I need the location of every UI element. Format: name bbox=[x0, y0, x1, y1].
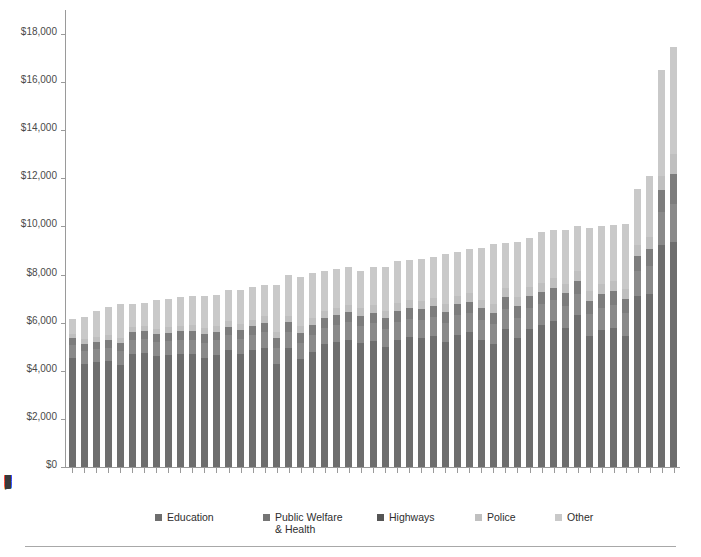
x-axis-tick-mark bbox=[421, 468, 422, 473]
bar-segment bbox=[81, 351, 88, 364]
bar[interactable] bbox=[562, 230, 569, 467]
bar[interactable] bbox=[237, 290, 244, 467]
bar[interactable] bbox=[93, 311, 100, 467]
bar-segment bbox=[526, 329, 533, 467]
bar[interactable] bbox=[321, 271, 328, 467]
bar[interactable] bbox=[430, 257, 437, 467]
bar-segment bbox=[574, 294, 581, 316]
bar-segment bbox=[550, 230, 557, 279]
bar-segment bbox=[382, 311, 389, 319]
bar[interactable] bbox=[357, 271, 364, 467]
bar-segment bbox=[514, 242, 521, 297]
bar[interactable] bbox=[117, 304, 124, 467]
bar[interactable] bbox=[478, 248, 485, 467]
bar[interactable] bbox=[345, 267, 352, 467]
bar[interactable] bbox=[261, 285, 268, 467]
bar-segment bbox=[598, 226, 605, 284]
bar[interactable] bbox=[586, 228, 593, 467]
bar[interactable] bbox=[201, 296, 208, 467]
bar[interactable] bbox=[490, 244, 497, 467]
bar[interactable] bbox=[406, 260, 413, 467]
bar-segment bbox=[225, 327, 232, 336]
bar-segment bbox=[490, 324, 497, 344]
bar[interactable] bbox=[502, 243, 509, 467]
bar-segment bbox=[153, 300, 160, 329]
bar[interactable] bbox=[225, 290, 232, 467]
legend-label: Highways bbox=[389, 511, 435, 523]
bar[interactable] bbox=[105, 307, 112, 467]
bar[interactable] bbox=[442, 254, 449, 467]
bar-segment bbox=[646, 176, 653, 237]
bar-segment bbox=[478, 308, 485, 320]
bar[interactable] bbox=[129, 304, 136, 467]
bar[interactable] bbox=[213, 295, 220, 467]
bar-segment bbox=[105, 361, 112, 467]
x-axis-tick-mark bbox=[469, 468, 470, 473]
bar-segment bbox=[442, 312, 449, 323]
legend-swatch bbox=[475, 514, 482, 521]
bar[interactable] bbox=[153, 300, 160, 467]
bar[interactable] bbox=[526, 238, 533, 467]
bar[interactable] bbox=[646, 176, 653, 467]
bar-segment bbox=[297, 326, 304, 333]
bar-segment bbox=[370, 267, 377, 305]
bar-segment bbox=[345, 340, 352, 467]
bar[interactable] bbox=[670, 47, 677, 467]
bar-segment bbox=[333, 325, 340, 342]
bar[interactable] bbox=[69, 319, 76, 467]
legend-item[interactable]: Police bbox=[475, 511, 516, 523]
bar-segment bbox=[490, 304, 497, 313]
x-axis-tick-mark bbox=[578, 468, 579, 473]
bar[interactable] bbox=[333, 269, 340, 467]
bar[interactable] bbox=[658, 70, 665, 467]
bar-segment bbox=[357, 271, 364, 308]
bar[interactable] bbox=[81, 317, 88, 467]
y-axis-tick: $10,000 bbox=[0, 226, 66, 227]
legend-item[interactable]: Public Welfare & Health bbox=[263, 511, 343, 535]
bar[interactable] bbox=[189, 296, 196, 467]
y-axis-tick-label: $14,000 bbox=[21, 122, 57, 133]
bar-segment bbox=[309, 352, 316, 467]
legend-item[interactable]: Other bbox=[555, 511, 593, 523]
bar[interactable] bbox=[466, 249, 473, 467]
bar[interactable] bbox=[165, 299, 172, 467]
bar[interactable] bbox=[394, 261, 401, 467]
bar-segment bbox=[406, 300, 413, 308]
bar[interactable] bbox=[574, 226, 581, 467]
bar[interactable] bbox=[249, 287, 256, 467]
bar-segment bbox=[430, 317, 437, 336]
bar-segment bbox=[574, 315, 581, 467]
legend-item[interactable]: Highways bbox=[377, 511, 435, 523]
bar-segment bbox=[81, 364, 88, 467]
bar-segment bbox=[213, 355, 220, 467]
bar[interactable] bbox=[309, 273, 316, 467]
bar[interactable] bbox=[370, 267, 377, 467]
bar[interactable] bbox=[538, 232, 545, 467]
bar-segment bbox=[502, 309, 509, 329]
bar[interactable] bbox=[141, 303, 148, 467]
bar[interactable] bbox=[418, 259, 425, 467]
x-axis-tick-mark bbox=[349, 468, 350, 473]
bar[interactable] bbox=[610, 225, 617, 467]
bar-segment bbox=[622, 289, 629, 300]
bar[interactable] bbox=[550, 230, 557, 467]
bar[interactable] bbox=[382, 267, 389, 467]
bar[interactable] bbox=[273, 285, 280, 467]
bar[interactable] bbox=[598, 226, 605, 467]
bar[interactable] bbox=[622, 224, 629, 467]
x-axis-tick-mark bbox=[96, 468, 97, 473]
bar[interactable] bbox=[514, 242, 521, 467]
bar[interactable] bbox=[634, 189, 641, 467]
bar[interactable] bbox=[285, 275, 292, 467]
legend-item[interactable]: Education bbox=[155, 511, 214, 523]
bar-segment bbox=[526, 308, 533, 329]
bar-segment bbox=[454, 335, 461, 467]
bar[interactable] bbox=[454, 252, 461, 467]
bar-segment bbox=[610, 305, 617, 327]
bar[interactable] bbox=[177, 297, 184, 467]
bar-segment bbox=[586, 314, 593, 336]
bar-segment bbox=[177, 340, 184, 354]
bar-segment bbox=[189, 331, 196, 339]
bar-segment bbox=[442, 323, 449, 342]
bar[interactable] bbox=[297, 277, 304, 467]
